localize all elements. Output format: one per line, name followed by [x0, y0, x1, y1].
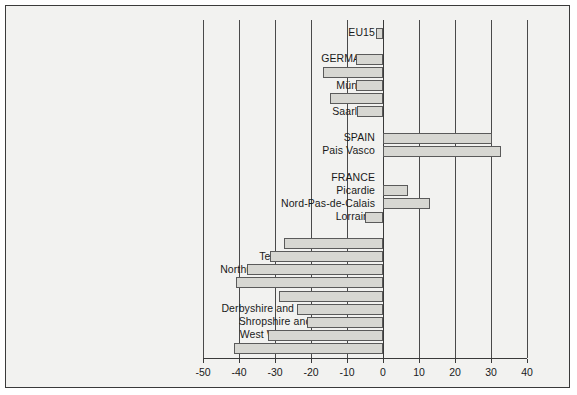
category-label-9: Pais Vasco [175, 145, 375, 156]
x-tick-label-0: 0 [363, 366, 403, 378]
bar-2 [356, 54, 383, 65]
bar-3 [323, 67, 383, 78]
x-tick-label-20: 20 [435, 366, 475, 378]
x-tick-label--40: -40 [219, 366, 259, 378]
x-tick-label--30: -30 [255, 366, 295, 378]
category-label-14: Lorraine [175, 211, 375, 222]
x-tick-0 [383, 359, 384, 363]
bar-5 [330, 93, 383, 104]
category-label-0: EU15 [175, 27, 375, 38]
bar-0 [376, 28, 383, 39]
x-tick--30 [275, 359, 276, 363]
x-tick--50 [203, 359, 204, 363]
bar-4 [356, 80, 383, 91]
x-tick-label-10: 10 [399, 366, 439, 378]
bar-17 [270, 251, 383, 262]
x-tick--40 [239, 359, 240, 363]
x-tick-label--50: -50 [183, 366, 223, 378]
x-tick--10 [347, 359, 348, 363]
x-tick-40 [527, 359, 528, 363]
bar-22 [307, 317, 383, 328]
bar-19 [236, 277, 383, 288]
bar-21 [297, 304, 383, 315]
x-tick-20 [455, 359, 456, 363]
gridline-30 [491, 20, 492, 358]
x-tick-label-40: 40 [507, 366, 547, 378]
gridline-10 [419, 20, 420, 358]
bar-12 [383, 185, 408, 196]
bar-9 [383, 146, 501, 157]
chart-plot-area: -50-40-30-20-10010203040EU15GERMANYDüsse… [6, 6, 571, 389]
x-tick-label--10: -10 [327, 366, 367, 378]
category-label-11: FRANCE [175, 172, 375, 183]
x-tick-label--20: -20 [291, 366, 331, 378]
bar-16 [284, 238, 383, 249]
category-label-4: Münster [175, 80, 375, 91]
gridline-40 [527, 20, 528, 358]
bar-6 [357, 106, 383, 117]
bar-20 [279, 291, 383, 302]
category-label-2: GERMANY [175, 53, 375, 64]
chart-frame: -50-40-30-20-10010203040EU15GERMANYDüsse… [5, 5, 570, 388]
bar-23 [268, 330, 383, 341]
x-tick-label-30: 30 [471, 366, 511, 378]
category-label-13: Nord-Pas-de-Calais [175, 198, 375, 209]
bar-8 [383, 133, 492, 144]
bar-24 [234, 343, 383, 354]
gridline-20 [455, 20, 456, 358]
category-label-6: Saarland [175, 106, 375, 117]
x-tick-30 [491, 359, 492, 363]
bar-13 [383, 198, 430, 209]
bar-18 [247, 264, 383, 275]
category-label-12: Picardie [175, 185, 375, 196]
category-label-8: SPAIN [175, 132, 375, 143]
bar-14 [365, 212, 383, 223]
x-tick--20 [311, 359, 312, 363]
x-tick-10 [419, 359, 420, 363]
x-axis-line [203, 358, 527, 359]
